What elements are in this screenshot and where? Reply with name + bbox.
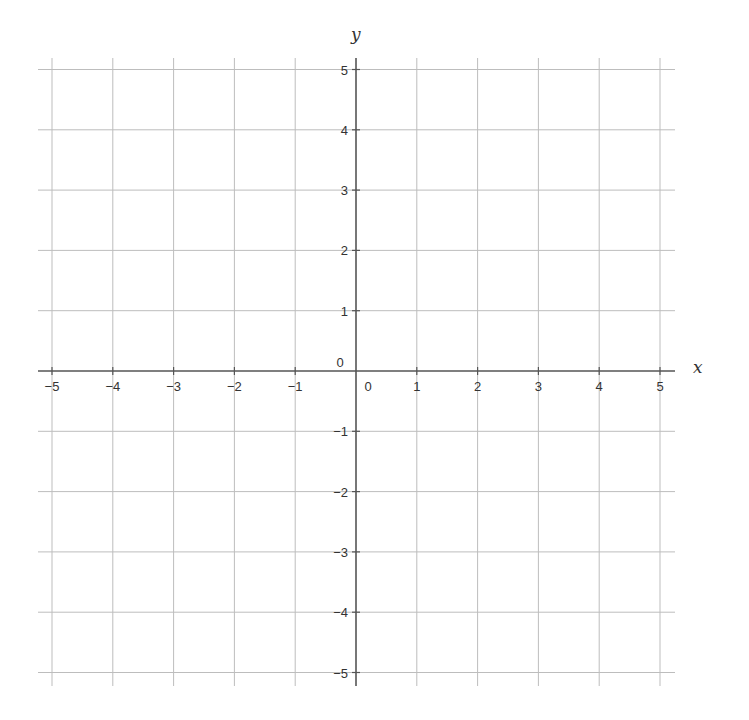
x-tick-label: 5 [656,379,663,394]
x-tick-label: 1 [413,379,420,394]
x-tick-label: −3 [166,379,181,394]
y-tick-label: −3 [333,545,348,560]
y-axis-label: y [350,24,361,44]
x-axis-label: x [693,357,703,377]
x-tick-labels: −5−4−3−2−112345 [45,379,664,394]
x-tick-label: 2 [474,379,481,394]
x-tick-label: −2 [227,379,242,394]
x-tick-label: 3 [535,379,542,394]
y-tick-label: 1 [341,304,348,319]
y-tick-label: 2 [341,243,348,258]
y-tick-label: 5 [341,63,348,78]
x-origin-label: 0 [364,379,371,394]
y-tick-label: 4 [341,123,348,138]
y-tick-label: −1 [333,424,348,439]
x-tick-label: −4 [105,379,120,394]
x-tick-label: −1 [288,379,303,394]
x-tick-label: 4 [596,379,603,394]
y-origin-label: 0 [336,355,343,370]
coordinate-plane: −5−4−3−2−112345 −5−4−3−2−112345 x y 0 0 [0,0,749,720]
x-tick-label: −5 [45,379,60,394]
y-tick-label: −5 [333,666,348,681]
y-tick-label: −2 [333,485,348,500]
y-tick-label: −4 [333,605,348,620]
y-tick-label: 3 [341,183,348,198]
